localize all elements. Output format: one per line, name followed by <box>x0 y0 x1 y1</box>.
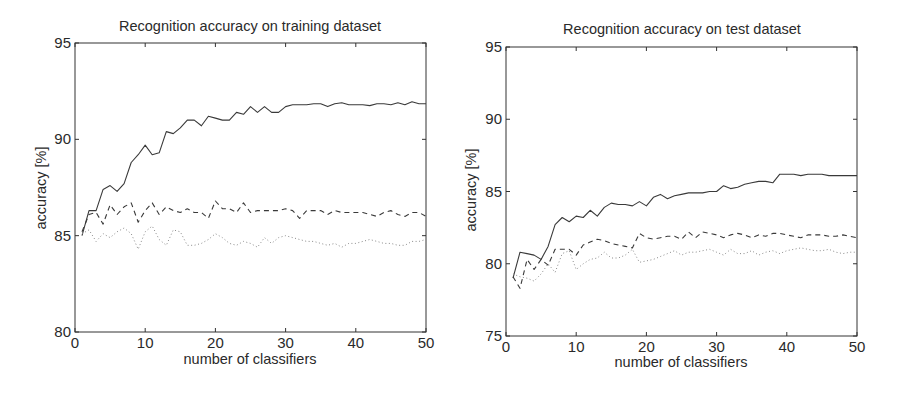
y-tick-label: 95 <box>485 38 502 55</box>
series-test <box>513 174 857 288</box>
x-tick-label: 50 <box>418 334 435 351</box>
x-tick-label: 20 <box>638 338 655 355</box>
x-tick-label: 20 <box>207 334 224 351</box>
x-ticks-training: 01020304050 <box>71 43 435 351</box>
x-tick-label: 0 <box>502 338 510 355</box>
y-axis-label-test: accuracy [%] <box>463 149 479 232</box>
y-tick-label: 95 <box>54 34 71 51</box>
y-tick-label: 80 <box>485 255 502 272</box>
series-line-dashed <box>82 201 426 232</box>
figure: Recognition accuracy on training dataset… <box>0 0 902 395</box>
x-tick-label: 30 <box>277 334 294 351</box>
x-tick-label: 50 <box>849 338 866 355</box>
x-tick-label: 10 <box>137 334 154 351</box>
x-tick-label: 40 <box>347 334 364 351</box>
series-line-dashed <box>513 232 857 288</box>
y-tick-label: 80 <box>54 323 71 340</box>
y-tick-label: 90 <box>54 130 71 147</box>
x-tick-label: 40 <box>778 338 795 355</box>
series-line-dotted <box>513 248 857 281</box>
x-tick-label: 0 <box>71 334 79 351</box>
chart-title-training: Recognition accuracy on training dataset <box>119 18 381 34</box>
y-tick-label: 75 <box>485 327 502 344</box>
y-axis-label-training: accuracy [%] <box>33 147 49 230</box>
training-accuracy-chart: Recognition accuracy on training dataset… <box>33 18 434 367</box>
y-tick-label: 85 <box>485 183 502 200</box>
x-ticks-test: 01020304050 <box>502 47 866 355</box>
x-axis-label-test: number of classifiers <box>615 354 748 370</box>
series-line-solid <box>513 174 857 278</box>
x-axis-label-training: number of classifiers <box>184 351 317 367</box>
x-tick-label: 10 <box>568 338 585 355</box>
test-accuracy-chart: Recognition accuracy on test dataset 758… <box>463 21 865 370</box>
y-tick-label: 90 <box>485 110 502 127</box>
y-tick-label: 85 <box>54 227 71 244</box>
series-line-dotted <box>82 226 426 249</box>
y-ticks-training: 80859095 <box>54 34 426 340</box>
plot-area-test <box>506 47 857 336</box>
x-tick-label: 30 <box>708 338 725 355</box>
chart-title-test: Recognition accuracy on test dataset <box>563 21 801 37</box>
series-training <box>82 102 426 249</box>
y-ticks-test: 7580859095 <box>485 38 857 344</box>
plot-area-training <box>75 43 426 332</box>
